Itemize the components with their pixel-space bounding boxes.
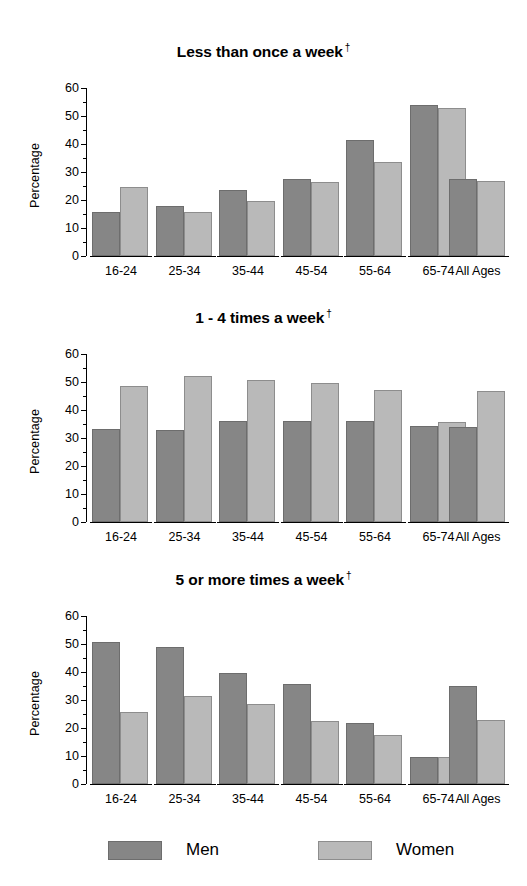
group-baseline xyxy=(344,784,406,785)
y-axis-minor-tick xyxy=(83,186,86,187)
group-baseline xyxy=(447,256,509,257)
y-axis-tick xyxy=(81,256,86,257)
dagger-footnote-marker: † xyxy=(345,42,350,53)
y-axis-minor-tick xyxy=(83,686,86,687)
bar-group xyxy=(346,88,404,256)
chart-title-text: 5 or more times a week xyxy=(176,571,344,588)
group-baseline xyxy=(217,522,279,523)
bar-women xyxy=(184,696,212,784)
bar-group xyxy=(92,354,150,522)
y-axis-tick xyxy=(81,410,86,411)
bar-men xyxy=(219,673,247,784)
group-baseline xyxy=(281,256,343,257)
y-axis-tick xyxy=(81,728,86,729)
y-axis-minor-tick xyxy=(83,770,86,771)
y-axis-tick-label: 20 xyxy=(65,194,79,207)
plot-area: 010203040506016-2425-3435-4445-5455-6465… xyxy=(86,616,516,784)
bar-women xyxy=(247,704,275,784)
dagger-footnote-marker: † xyxy=(326,308,331,319)
bar-group xyxy=(283,354,341,522)
y-axis-label: Percentage xyxy=(28,409,42,474)
bar-men xyxy=(156,430,184,522)
bar-men xyxy=(283,421,311,522)
bar-women xyxy=(477,720,505,784)
group-baseline xyxy=(217,256,279,257)
group-baseline xyxy=(447,522,509,523)
bar-group xyxy=(92,616,150,784)
dagger-footnote-marker: † xyxy=(346,570,351,581)
bar-men xyxy=(283,684,311,784)
y-axis-minor-tick xyxy=(83,368,86,369)
bar-group xyxy=(219,354,277,522)
bar-group xyxy=(156,88,214,256)
group-baseline xyxy=(281,522,343,523)
bar-men xyxy=(92,642,120,784)
y-axis-tick-label: 20 xyxy=(65,460,79,473)
y-axis-tick-label: 10 xyxy=(65,222,79,235)
y-axis-tick xyxy=(81,88,86,89)
bar-women xyxy=(311,721,339,784)
plot-area: 010203040506016-2425-3435-4445-5455-6465… xyxy=(86,354,516,522)
bar-women xyxy=(477,181,505,256)
y-axis-tick xyxy=(81,644,86,645)
legend-label-men: Men xyxy=(186,840,219,860)
bar-group xyxy=(92,88,150,256)
y-axis-tick-label: 50 xyxy=(65,110,79,123)
y-axis-label: Percentage xyxy=(28,671,42,736)
y-axis-tick-label: 50 xyxy=(65,638,79,651)
legend-label-women: Women xyxy=(396,840,454,860)
bar-group xyxy=(449,354,507,522)
y-axis-tick-label: 40 xyxy=(65,666,79,679)
group-baseline xyxy=(154,256,216,257)
bar-men xyxy=(449,686,477,784)
chart-title: Less than once a week† xyxy=(0,42,527,61)
group-baseline xyxy=(447,784,509,785)
y-axis-tick-label: 40 xyxy=(65,404,79,417)
bar-women xyxy=(477,391,505,522)
legend-item-men: Men xyxy=(108,840,219,860)
y-axis-tick-label: 0 xyxy=(72,250,79,263)
y-axis-tick-label: 60 xyxy=(65,610,79,623)
y-axis-minor-tick xyxy=(83,742,86,743)
y-axis-tick xyxy=(81,228,86,229)
y-axis-tick-label: 40 xyxy=(65,138,79,151)
x-axis-tick-label: All Ages xyxy=(437,265,519,278)
y-axis-minor-tick xyxy=(83,452,86,453)
plot-area: 010203040506016-2425-3435-4445-5455-6465… xyxy=(86,88,516,256)
y-axis-tick-label: 50 xyxy=(65,376,79,389)
bar-group xyxy=(156,354,214,522)
y-axis-tick xyxy=(81,466,86,467)
y-axis-tick-label: 0 xyxy=(72,778,79,791)
bar-men xyxy=(156,206,184,256)
group-baseline xyxy=(217,784,279,785)
legend-swatch-men xyxy=(108,841,162,860)
bar-group xyxy=(449,88,507,256)
bar-women xyxy=(311,383,339,522)
y-axis-tick-label: 10 xyxy=(65,750,79,763)
bar-women xyxy=(120,386,148,522)
y-axis-tick xyxy=(81,616,86,617)
y-axis-tick xyxy=(81,116,86,117)
y-axis-minor-tick xyxy=(83,658,86,659)
bar-women xyxy=(374,735,402,784)
chart-panel: 1 - 4 times a week†Percentage01020304050… xyxy=(0,308,527,562)
y-axis-tick xyxy=(81,522,86,523)
bar-women xyxy=(374,162,402,256)
chart-panel: 5 or more times a week†Percentage0102030… xyxy=(0,570,527,824)
group-baseline xyxy=(344,256,406,257)
y-axis-tick xyxy=(81,494,86,495)
group-baseline xyxy=(281,784,343,785)
y-axis-tick xyxy=(81,354,86,355)
y-axis-line xyxy=(86,616,87,784)
y-axis-tick-label: 60 xyxy=(65,348,79,361)
bar-men xyxy=(449,427,477,522)
bar-men xyxy=(92,429,120,522)
bar-women xyxy=(311,182,339,256)
bar-group xyxy=(219,616,277,784)
group-baseline xyxy=(90,784,152,785)
y-axis-minor-tick xyxy=(83,158,86,159)
bar-women xyxy=(120,712,148,784)
y-axis-tick-label: 60 xyxy=(65,82,79,95)
y-axis-tick xyxy=(81,144,86,145)
y-axis-line xyxy=(86,88,87,256)
